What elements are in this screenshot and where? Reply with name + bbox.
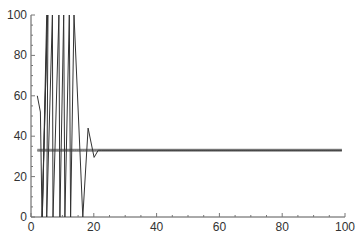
x-tick-label: 0	[28, 220, 35, 234]
plot-area	[37, 15, 342, 217]
y-tick-label: 80	[14, 48, 28, 62]
series-oscillating-response	[37, 15, 342, 217]
x-tick-label: 100	[335, 220, 355, 234]
y-tick-label: 0	[20, 210, 27, 224]
line-chart: 020406080100020406080100	[0, 0, 361, 242]
y-tick-label: 60	[14, 89, 28, 103]
x-tick-label: 40	[150, 220, 164, 234]
y-tick-label: 20	[14, 170, 28, 184]
x-tick-label: 60	[213, 220, 227, 234]
y-tick-label: 100	[7, 8, 27, 22]
y-tick-label: 40	[14, 129, 28, 143]
x-tick-label: 20	[87, 220, 101, 234]
x-tick-label: 80	[276, 220, 290, 234]
